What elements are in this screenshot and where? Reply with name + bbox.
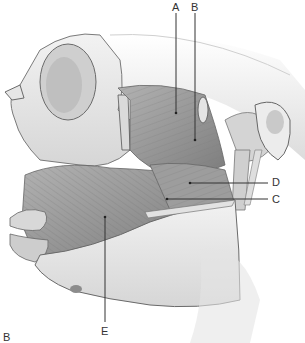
zygomatic-arch-cut bbox=[198, 97, 208, 123]
nasal-bone bbox=[5, 85, 24, 100]
label-b: B bbox=[191, 2, 198, 13]
label-e: E bbox=[101, 326, 108, 337]
label-a: A bbox=[172, 2, 179, 13]
mental-foramen bbox=[70, 285, 82, 293]
label-d: D bbox=[272, 177, 280, 188]
label-c: C bbox=[272, 194, 280, 205]
illustration bbox=[0, 0, 305, 343]
panel-label: B bbox=[3, 332, 10, 343]
anatomy-figure: A B D C E B bbox=[0, 0, 305, 343]
upper-lip bbox=[10, 210, 47, 231]
